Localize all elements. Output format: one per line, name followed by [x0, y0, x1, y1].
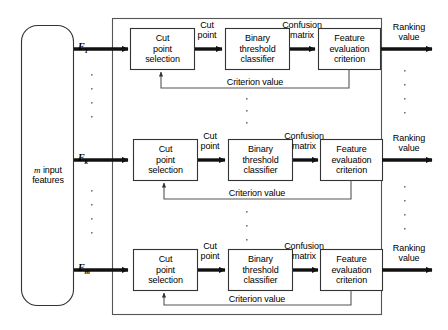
diagram-canvas: m input features F1 Cut point selection …	[0, 0, 448, 330]
feature-label-row-3-sub: m	[85, 268, 90, 276]
feature-label-row-2-sub: k	[85, 158, 88, 166]
feature-label-row-3-letter: F	[78, 262, 85, 273]
feedback-label-criterion-value-row-3: Criterion value	[197, 294, 317, 304]
feedback-label-criterion-value-row-1: Criterion value	[195, 77, 315, 87]
block-feature-evaluation-criterion-row-3[interactable]: Feature evaluation criterion	[320, 254, 383, 286]
feedback-label-criterion-value-row-2: Criterion value	[197, 188, 317, 198]
output-label-ranking-value-row-2: Ranking value	[384, 133, 434, 153]
edge-label-cut-point-row-2: Cut point	[186, 131, 234, 151]
feature-label-row-1-letter: F	[78, 41, 85, 52]
feature-label-row-2: Fk	[78, 141, 104, 168]
feature-label-row-2-letter: F	[78, 152, 85, 163]
feature-label-row-3: Fm	[78, 251, 104, 278]
edge-label-cut-point-row-3: Cut point	[186, 241, 234, 261]
feature-label-row-1-sub: 1	[85, 47, 88, 55]
output-label-ranking-value-row-1: Ranking value	[384, 22, 434, 42]
output-label-ranking-value-row-3: Ranking value	[384, 243, 434, 263]
feature-label-row-1: F1	[78, 30, 104, 57]
edge-label-cut-point-row-1: Cut point	[183, 20, 231, 40]
block-feature-evaluation-criterion-row-1[interactable]: Feature evaluation criterion	[318, 33, 381, 65]
input-features-label: m input features	[19, 155, 77, 185]
block-feature-evaluation-criterion-row-2[interactable]: Feature evaluation criterion	[320, 144, 383, 176]
